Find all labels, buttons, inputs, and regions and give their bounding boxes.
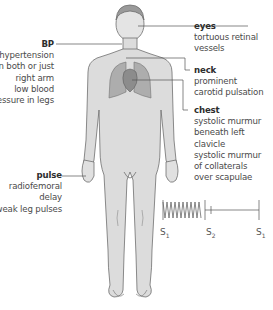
- label-bp-heading: BP: [0, 39, 54, 50]
- label-chest-heading: chest: [194, 105, 261, 116]
- label-pulse-text: radiofemoral delay weak leg pulses: [0, 181, 62, 215]
- phonocardiogram: [163, 200, 259, 220]
- marker-s1-first: S1: [160, 227, 170, 239]
- label-eyes: eyes tortuous retinal vessels: [194, 21, 258, 55]
- label-pulse: pulse radiofemoral delay weak leg pulses: [0, 170, 62, 215]
- body-silhouette: [82, 5, 178, 297]
- label-neck-text: prominent carotid pulsation: [194, 76, 263, 98]
- label-pulse-heading: pulse: [0, 170, 62, 181]
- marker-s1-second: S1: [256, 227, 266, 239]
- label-chest-text: systolic murmur beneath left clavicle sy…: [194, 116, 261, 183]
- label-eyes-text: tortuous retinal vessels: [194, 32, 258, 54]
- label-eyes-heading: eyes: [194, 21, 258, 32]
- marker-s2: S2: [206, 227, 216, 239]
- label-neck: neck prominent carotid pulsation: [194, 65, 263, 99]
- label-chest: chest systolic murmur beneath left clavi…: [194, 105, 261, 183]
- label-bp: BP hypertension in both or just right ar…: [0, 39, 54, 106]
- label-neck-heading: neck: [194, 65, 263, 76]
- diagram-canvas: eyes tortuous retinal vessels neck promi…: [0, 0, 273, 310]
- label-bp-text: hypertension in both or just right arm l…: [0, 50, 54, 106]
